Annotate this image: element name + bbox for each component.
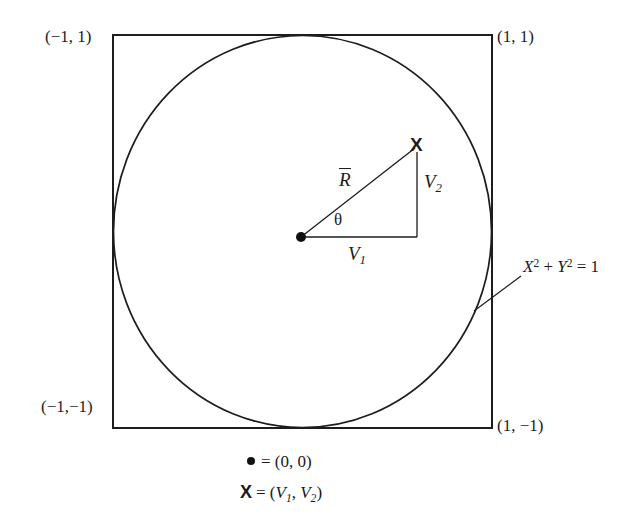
equation-y-base: Y bbox=[557, 257, 566, 276]
component-v2-base: V bbox=[424, 171, 436, 192]
legend-point-equals: = bbox=[256, 483, 266, 502]
origin-dot bbox=[296, 232, 306, 242]
legend-comma: , bbox=[292, 483, 296, 502]
corner-label-top-left: (−1, 1) bbox=[45, 28, 91, 45]
legend-close-paren: ) bbox=[316, 483, 322, 502]
equation-equals-value: = 1 bbox=[577, 257, 599, 276]
legend-x-icon: X bbox=[240, 482, 252, 502]
equation-x-base: X bbox=[523, 257, 533, 276]
legend-v1-base: V bbox=[276, 483, 286, 502]
angle-theta-label: θ bbox=[334, 211, 342, 228]
point-x-marker-label: X bbox=[410, 135, 423, 154]
component-v1-subscript: 1 bbox=[360, 252, 366, 267]
component-v1-label: V1 bbox=[348, 244, 366, 267]
legend-point-row: X= (V1, V2) bbox=[240, 482, 322, 505]
figure-container: (−1, 1) (1, 1) (−1,−1) (1, −1) X R θ V1 … bbox=[0, 0, 638, 527]
component-v2-subscript: 2 bbox=[436, 180, 442, 195]
component-v1-base: V bbox=[348, 243, 360, 264]
legend-dot-icon bbox=[247, 457, 255, 465]
vector-r-line bbox=[301, 148, 415, 237]
vector-magnitude-text: R bbox=[339, 168, 351, 189]
legend-origin-equals: = bbox=[261, 452, 271, 471]
legend-origin-row: = (0, 0) bbox=[247, 452, 312, 472]
legend-v2-base: V bbox=[300, 483, 310, 502]
corner-label-bottom-right: (1, −1) bbox=[497, 417, 543, 434]
unit-circle bbox=[114, 36, 492, 428]
corner-label-bottom-left: (−1,−1) bbox=[41, 398, 93, 415]
bounding-square bbox=[113, 35, 492, 428]
equation-plus-sign: + bbox=[543, 257, 553, 276]
vector-magnitude-label: R bbox=[339, 168, 351, 189]
equation-x-exponent: 2 bbox=[533, 257, 539, 270]
corner-label-top-right: (1, 1) bbox=[497, 28, 534, 45]
equation-y-exponent: 2 bbox=[567, 257, 573, 270]
component-v2-label: V2 bbox=[424, 172, 442, 195]
circle-equation-label: X2 + Y2 = 1 bbox=[523, 258, 599, 275]
legend-origin-value: (0, 0) bbox=[275, 452, 312, 471]
